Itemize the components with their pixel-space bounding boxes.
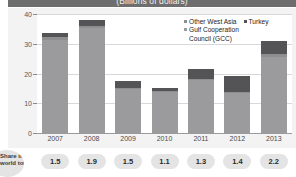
y-tick-label-10: 10 <box>10 100 32 107</box>
chart-title: (Billions of dollars) <box>8 0 296 6</box>
bar-segment-2009-gulf-cooperation-council-gcc <box>115 89 141 133</box>
gridline-40 <box>37 14 292 15</box>
y-tick-label-20: 20 <box>10 70 32 77</box>
bar-2013[interactable] <box>261 41 287 133</box>
y-tick-mark-10 <box>33 103 37 104</box>
bar-segment-2011-turkey <box>188 69 214 78</box>
chart-screenshot: (Billions of dollars) 010203040 20072008… <box>0 0 296 177</box>
bar-2009[interactable] <box>115 81 141 133</box>
bar-segment-2009-turkey <box>115 81 141 88</box>
legend-marker-other-west-asia-icon <box>184 20 187 23</box>
legend-label-turkey: Turkey <box>249 18 269 26</box>
y-tick-mark-0 <box>33 133 37 134</box>
y-tick-label-0: 0 <box>10 130 32 137</box>
legend-marker-gcc-icon <box>184 28 187 31</box>
y-tick-label-30: 30 <box>10 40 32 47</box>
x-tick-label-2010: 2010 <box>148 135 182 142</box>
bar-segment-2008-gulf-cooperation-council-gcc <box>79 28 105 133</box>
x-tick-label-2007: 2007 <box>38 135 72 142</box>
x-tick-label-2008: 2008 <box>75 135 109 142</box>
share-row-label-badge: Share in world total <box>0 150 24 177</box>
bar-2008[interactable] <box>79 20 105 133</box>
legend-marker-turkey-icon <box>244 20 247 23</box>
x-tick-label-2011: 2011 <box>184 135 218 142</box>
chart-legend: Other West Asia Turkey Gulf Cooperation … <box>184 18 296 43</box>
y-tick-label-40: 40 <box>10 11 32 18</box>
legend-item-turkey[interactable]: Turkey <box>244 18 269 26</box>
y-tick-mark-20 <box>33 74 37 75</box>
bar-2012[interactable] <box>224 76 250 133</box>
share-value-2008: 1.9 <box>78 154 106 169</box>
gridline-30 <box>37 44 292 45</box>
bar-segment-2007-gulf-cooperation-council-gcc <box>42 40 68 133</box>
x-tick-label-2012: 2012 <box>220 135 254 142</box>
share-value-2012: 1.4 <box>223 154 251 169</box>
gridline-0 <box>37 133 292 134</box>
legend-label-gcc-line1: Gulf Cooperation <box>189 26 239 34</box>
bar-2007[interactable] <box>42 33 68 133</box>
legend-item-other-west-asia[interactable]: Other West Asia <box>184 18 237 26</box>
x-tick-label-2009: 2009 <box>111 135 145 142</box>
bar-segment-2012-gulf-cooperation-council-gcc <box>224 93 250 133</box>
legend-label-gcc: Gulf Cooperation Council (GCC) <box>189 26 239 43</box>
share-value-row: Share in world total 1.51.91.51.11.31.42… <box>0 150 296 177</box>
bar-segment-2012-turkey <box>224 76 250 91</box>
share-value-2007: 1.5 <box>41 154 69 169</box>
legend-label-gcc-line2: Council (GCC) <box>189 35 239 43</box>
bar-2010[interactable] <box>152 88 178 134</box>
share-value-2009: 1.5 <box>114 154 142 169</box>
share-value-2010: 1.1 <box>151 154 179 169</box>
legend-label-other-west-asia: Other West Asia <box>189 18 237 26</box>
share-value-2011: 1.3 <box>187 154 215 169</box>
y-tick-mark-40 <box>33 14 37 15</box>
y-tick-mark-30 <box>33 44 37 45</box>
share-value-2013: 2.2 <box>260 154 288 169</box>
legend-row-bottom: Gulf Cooperation Council (GCC) <box>184 26 296 43</box>
bar-segment-2011-gulf-cooperation-council-gcc <box>188 80 214 133</box>
bar-segment-2010-gulf-cooperation-council-gcc <box>152 92 178 133</box>
bar-2011[interactable] <box>188 69 214 133</box>
legend-row-top: Other West Asia Turkey <box>184 18 296 26</box>
x-tick-label-2013: 2013 <box>257 135 291 142</box>
bar-segment-2013-gulf-cooperation-council-gcc <box>261 57 287 133</box>
legend-item-gcc[interactable]: Gulf Cooperation Council (GCC) <box>184 26 239 43</box>
chart-title-band: (Billions of dollars) <box>8 0 296 7</box>
chart-card: 010203040 2007200820092010201120122013 O… <box>8 8 296 148</box>
gridline-20 <box>37 74 292 75</box>
share-row-label: Share in world total <box>0 153 24 167</box>
